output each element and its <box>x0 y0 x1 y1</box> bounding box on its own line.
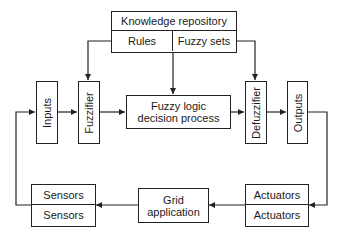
decision-line-2: decision process <box>138 112 220 124</box>
inputs-label: Inputs <box>41 98 53 128</box>
grid-application-box: Grid application <box>138 188 209 223</box>
sensors-bottom-label: Sensors <box>32 205 95 225</box>
actuators-top-label: Actuators <box>246 185 308 205</box>
defuzzifier-box: Defuzzifier <box>245 81 267 144</box>
outputs-label: Outputs <box>292 93 304 132</box>
decision-process-box: Fuzzy logic decision process <box>126 95 231 129</box>
decision-line-1: Fuzzy logic <box>151 100 206 112</box>
fuzzifier-label: Fuzzifier <box>83 92 95 134</box>
defuzzifier-label: Defuzzifier <box>250 87 262 139</box>
fuzzifier-box: Fuzzifier <box>78 81 100 144</box>
sensors-box: Sensors Sensors <box>31 184 96 227</box>
outputs-box: Outputs <box>287 81 308 144</box>
actuators-bottom-label: Actuators <box>246 205 308 225</box>
knowledge-repository-box: Knowledge repository Rules Fuzzy sets <box>111 11 237 53</box>
sensors-top-label: Sensors <box>32 185 95 205</box>
grid-application-label: Grid application <box>139 189 208 222</box>
inputs-box: Inputs <box>36 81 58 144</box>
decision-process-label: Fuzzy logic decision process <box>127 96 230 128</box>
fuzzy-sets-label: Fuzzy sets <box>173 31 235 51</box>
knowledge-repository-title: Knowledge repository <box>112 12 236 31</box>
actuators-box: Actuators Actuators <box>245 184 309 227</box>
grid-line-1: Grid <box>163 194 184 206</box>
grid-line-2: application <box>147 206 200 218</box>
rules-label: Rules <box>112 31 173 51</box>
